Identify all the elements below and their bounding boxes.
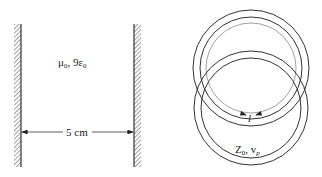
ring-line-figure	[193, 10, 309, 165]
diagram-canvas: μ0, 9ε0 5 cm l Z0, vp	[0, 0, 322, 177]
length-path-circle	[206, 23, 296, 113]
upper-ring-inner	[200, 17, 302, 119]
line-parameters-label: Z0, vp	[235, 143, 260, 157]
parallel-plate-figure: μ0, 9ε0 5 cm	[14, 24, 141, 167]
medium-label: μ0, 9ε0	[58, 56, 87, 70]
right-plate	[134, 24, 141, 167]
left-plate	[14, 24, 21, 167]
length-label: l	[248, 112, 251, 124]
separation-label: 5 cm	[66, 126, 88, 138]
separation-dimension: 5 cm	[22, 126, 133, 138]
